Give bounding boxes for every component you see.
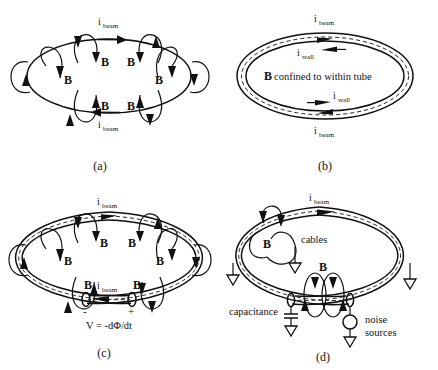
label-i-wall-bottom: i wall: [333, 90, 350, 104]
tube-outer-wall-right: [236, 207, 349, 305]
b-field-label: B: [64, 73, 72, 87]
arrowhead-down: [92, 231, 100, 242]
arrowhead-down: [92, 52, 100, 63]
panel-caption-b: (b): [318, 159, 332, 173]
tube-outer-wall: [292, 207, 403, 304]
i-symbol: i: [333, 90, 336, 101]
label-i-beam-top: i beam: [309, 192, 330, 206]
label-i-beam-top: i beam: [97, 196, 118, 210]
figure-container: i beam i beam B B B B B B (a): [0, 0, 438, 370]
b-field-label: B: [156, 254, 164, 268]
beam-direction-arrow-bottom: [317, 109, 333, 114]
tube-inner-wall-right: [241, 215, 346, 296]
i-symbol: i: [97, 280, 100, 291]
ground-icon: [227, 275, 239, 285]
label-i-wall-top: i wall: [297, 47, 314, 61]
panel-b: i beam i wall i wall i beam B confined t…: [219, 0, 438, 185]
b-field-label: B: [263, 237, 271, 251]
tube-inner-wall-right: [22, 220, 129, 296]
beam-subscript: beam: [102, 202, 118, 210]
panel-caption-a: (a): [93, 159, 106, 173]
b-field-loop: [139, 35, 162, 63]
beam-direction-arrow-top: [317, 38, 333, 43]
wall-current-arrow-bottom: [315, 100, 331, 106]
b-field-label: B: [319, 260, 327, 274]
i-symbol: i: [98, 119, 101, 130]
arrowhead-down: [329, 277, 337, 289]
panel-c: i beam i beam B B B B B B - + V = -dΦ/dt…: [0, 185, 219, 370]
arrowhead-up: [136, 96, 144, 108]
beam-subscript: beam: [319, 19, 335, 27]
i-symbol: i: [97, 196, 100, 207]
b-field-label: B: [264, 69, 272, 83]
b-field-label: B: [100, 236, 108, 250]
panel-d-drawing: i beam B cables B capacitance: [219, 185, 438, 370]
wall-subscript: wall: [302, 53, 314, 61]
arrowhead-down: [311, 277, 319, 289]
polarity-minus: -: [83, 305, 87, 317]
ground-icon: [404, 279, 416, 289]
i-symbol: i: [309, 192, 312, 203]
b-confined-statement: B confined to within tube: [264, 69, 372, 83]
arrowhead-down: [259, 211, 267, 223]
label-i-beam-top: i beam: [314, 13, 335, 27]
beam-subscript: beam: [103, 22, 119, 30]
voltage-equation: V = -dΦ/dt: [86, 320, 132, 331]
panel-c-drawing: i beam i beam B B B B B B - + V = -dΦ/dt…: [0, 185, 219, 370]
noise-source-icon: [343, 315, 357, 329]
b-field-label: B: [64, 254, 72, 268]
wall-subscript: wall: [338, 96, 350, 104]
panel-a-drawing: i beam i beam B B B B B B (a): [0, 0, 219, 185]
b-field-label: B: [127, 55, 135, 69]
beam-subscript: beam: [102, 286, 118, 294]
arrowhead-up: [20, 257, 28, 269]
noise-label: noise: [365, 314, 388, 325]
cable-loop: [271, 232, 295, 245]
b-field-label: B: [127, 99, 135, 113]
arrowhead-down: [56, 249, 64, 261]
b-field-arrowheads: [20, 217, 200, 313]
arrowhead-down: [56, 66, 64, 78]
sources-label: sources: [365, 327, 397, 338]
beam-direction-arrow-top: [101, 214, 117, 220]
ground-icon: [289, 263, 301, 273]
i-symbol: i: [314, 125, 317, 136]
polarity-plus: +: [128, 305, 134, 317]
arrowhead-down: [168, 249, 176, 261]
arrowhead-down: [148, 301, 156, 313]
arrowhead-up: [64, 301, 72, 313]
cables-label: cables: [301, 234, 327, 245]
b-field-label: B: [101, 99, 109, 113]
wall-current-arrow-top: [321, 47, 337, 53]
label-i-beam-bottom: i beam: [98, 119, 119, 133]
panel-caption-d: (d): [316, 350, 330, 364]
b-field-loop-group: [11, 35, 209, 122]
b-field-label: B: [133, 278, 141, 292]
b-field-label: B: [128, 236, 136, 250]
panel-d: i beam B cables B capacitance: [219, 185, 438, 370]
beam-subscript: beam: [103, 125, 119, 133]
beam-subscript: beam: [319, 131, 335, 139]
capacitance-label: capacitance: [229, 306, 278, 317]
i-symbol: i: [98, 16, 101, 27]
label-i-beam-top: i beam: [98, 16, 119, 30]
arrowhead-down: [168, 66, 176, 78]
arrowhead-up: [22, 74, 30, 86]
arrowhead-up: [152, 36, 160, 48]
b-confined-text: confined to within tube: [274, 71, 372, 82]
beam-centerline: [294, 211, 401, 300]
arrowhead-down: [146, 114, 154, 126]
i-symbol: i: [314, 13, 317, 24]
arrowhead-up: [66, 114, 74, 126]
ground-icon: [344, 337, 356, 347]
arrowhead-up: [92, 96, 100, 108]
b-field-label: B: [101, 55, 109, 69]
cable-loop: [267, 245, 296, 264]
b-field-label: B: [155, 73, 163, 87]
beam-subscript: beam: [314, 198, 330, 206]
ground-icon: [285, 326, 297, 336]
panel-caption-c: (c): [97, 346, 110, 360]
arrowhead-down: [136, 52, 144, 63]
arrowhead-down: [136, 231, 144, 242]
tube-inner-wall: [295, 215, 398, 296]
